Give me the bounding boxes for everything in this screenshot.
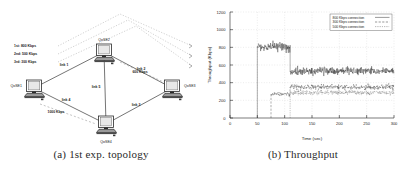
topology-flow-label: 3rd: 300 Kbps: [14, 60, 37, 64]
chart-legend-label: 500 Kbps connection: [333, 25, 365, 29]
topology-node-label: QoSE3: [184, 84, 196, 88]
y-tick-label: 600: [219, 63, 226, 68]
x-tick-label: 100: [281, 121, 288, 126]
x-tick-label: 50: [255, 121, 260, 126]
topology-link-label: link 4: [62, 98, 71, 102]
topology-node-qose3: QoSE3: [163, 80, 196, 100]
x-tick-label: 300: [391, 121, 398, 126]
throughput-chart: 020040060080010001200050100150200250300T…: [202, 2, 404, 146]
topology-node-label: QoSE1: [10, 84, 22, 88]
x-tick-label: 200: [336, 121, 343, 126]
y-tick-label: 200: [219, 98, 226, 103]
topology-flow-label: 1st: 800 Kbps: [14, 44, 36, 48]
panel-throughput: 020040060080010001200050100150200250300T…: [202, 0, 404, 180]
x-tick-label: 150: [309, 121, 316, 126]
topology-node-qose1: QoSE1: [10, 80, 44, 100]
y-tick-label: 1000: [217, 27, 227, 32]
panel-topology: QoSE1QoSE2QoSE3QoSE4link 1link 2link 3li…: [0, 0, 202, 180]
x-tick-label: 250: [363, 121, 370, 126]
y-tick-label: 1200: [217, 10, 227, 15]
figure-root: QoSE1QoSE2QoSE3QoSE4link 1link 2link 3li…: [0, 0, 404, 180]
topology-capacity-label: 600 Kbps: [132, 70, 147, 74]
topology-flow-label: 2nd: 500 Kbps: [14, 52, 37, 56]
topology-node-qose4: QoSE4: [97, 116, 117, 144]
y-axis-label: Throughput (Kbps): [207, 46, 212, 83]
topology-link-label: link 1: [60, 63, 69, 67]
caption-panel-b: (b) Throughput: [202, 148, 404, 160]
topology-link-label: link 5: [92, 85, 101, 89]
caption-panel-a: (a) 1st exp. topology: [0, 148, 202, 160]
topology-node-label: QoSE4: [100, 140, 112, 144]
y-tick-label: 400: [219, 80, 226, 85]
topology-diagram: QoSE1QoSE2QoSE3QoSE4link 1link 2link 3li…: [0, 0, 202, 146]
x-axis-label: Time (sec): [302, 136, 323, 141]
chart-legend: 800 Kbps connection300 Kbps connection50…: [330, 14, 392, 31]
topology-link-label: link 3: [132, 103, 141, 107]
y-tick-label: 800: [219, 45, 226, 50]
topology-node-qose2: QoSE2: [95, 38, 115, 64]
topology-node-label: QoSE2: [98, 38, 110, 42]
chart-legend-label: 800 Kbps connection: [333, 16, 365, 20]
topology-capacity-label: 1000 Kbps: [48, 110, 65, 114]
chart-legend-label: 300 Kbps connection: [333, 20, 365, 24]
